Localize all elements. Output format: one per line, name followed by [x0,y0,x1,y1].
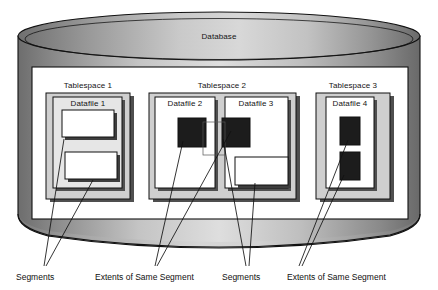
tablespace-3-group[interactable] [316,93,394,202]
datafile-2-label: Datafile 2 [168,99,203,108]
datafile-1-label: Datafile 1 [71,99,106,108]
tablespace-3-label: Tablespace 3 [329,81,377,90]
database-label: Database [201,32,236,41]
diagram-canvas: Database Tablespace 1 Tablespace 2 Table… [0,0,438,290]
datafile-4-extent-a [340,117,360,145]
datafile-4-label: Datafile 4 [333,99,368,108]
callout-extents-2: Extents of Same Segment [287,272,386,282]
datafile-1-segment-b [65,152,117,179]
datafile-3-extent [222,118,250,147]
datafile-1-segment-a [62,110,114,137]
callout-segments-2: Segments [222,272,260,282]
callout-segments-1: Segments [16,272,54,282]
tablespace-1-label: Tablespace 1 [64,81,112,90]
tablespace-2-label: Tablespace 2 [198,81,246,90]
callout-extents-1: Extents of Same Segment [95,272,194,282]
diagram-svg [0,0,438,290]
datafile-3-segment [235,157,288,185]
datafile-3-label: Datafile 3 [239,99,274,108]
datafile-4-extent-b [340,152,360,180]
